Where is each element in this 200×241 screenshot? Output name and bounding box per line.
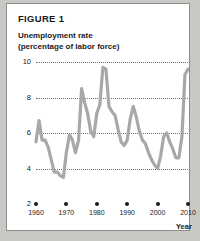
x-axis-tick-dot-1990 (125, 202, 129, 206)
y-axis-tick-6: 6 (11, 128, 31, 137)
unemployment-line-series (36, 62, 188, 204)
x-axis-tick-dot-2010 (186, 202, 190, 206)
chart-title-line-2: (percentage of labor force) (18, 42, 119, 53)
x-axis-tick-label-1960: 1960 (21, 209, 51, 216)
x-axis-tick-dot-2000 (156, 202, 160, 206)
x-axis-tick-label-1990: 1990 (112, 209, 142, 216)
y-axis-tick-10: 10 (11, 57, 31, 66)
x-axis-tick-dot-1980 (95, 202, 99, 206)
figure-label: FIGURE 1 (18, 13, 64, 24)
plot-area (36, 62, 188, 204)
x-axis-tick-label-1970: 1970 (51, 209, 81, 216)
figure-card: FIGURE 1 Unemployment rate (percentage o… (6, 3, 190, 231)
chart-title: Unemployment rate (percentage of labor f… (18, 31, 119, 52)
x-axis-tick-dot-1960 (34, 202, 38, 206)
x-axis-tick-label-2010: 2010 (173, 209, 200, 216)
y-axis-tick-4: 4 (11, 164, 31, 173)
x-axis-tick-label-2000: 2000 (143, 209, 173, 216)
x-axis-title: Year (176, 222, 192, 231)
y-axis-tick-2: 2 (11, 199, 31, 208)
x-axis-tick-dot-1970 (64, 202, 68, 206)
x-axis-tick-label-1980: 1980 (82, 209, 112, 216)
series-polyline (36, 67, 188, 177)
chart-title-line-1: Unemployment rate (18, 31, 119, 42)
y-axis-tick-8: 8 (11, 93, 31, 102)
